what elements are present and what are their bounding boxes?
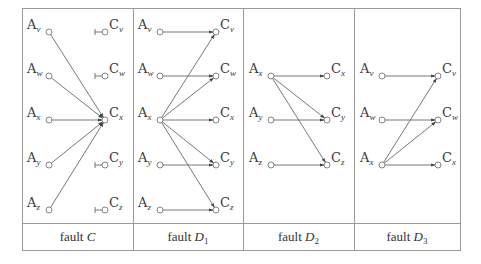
node-label-ax: Ax: [248, 61, 262, 78]
node-label-ay: Ay: [137, 150, 151, 167]
node-az: [157, 207, 163, 213]
node-label-ax: Ax: [137, 105, 151, 122]
node-label-ay: Ay: [26, 150, 40, 167]
edge-aw-cx: [51, 78, 102, 118]
node-label-cw: Cw: [220, 61, 236, 78]
node-cy: [324, 117, 330, 123]
node-label-cy: Cy: [220, 150, 234, 167]
node-cx: [435, 162, 441, 168]
node-label-ay: Ay: [248, 105, 262, 122]
fault-diagram: AvAwAxAyAzCvCwCxCyCzfault CAvAwAxAyAzCvC…: [0, 0, 481, 264]
node-label-aw: Aw: [26, 61, 42, 78]
node-label-az: Az: [26, 195, 40, 212]
node-cv: [213, 29, 219, 35]
node-av: [157, 29, 163, 35]
node-label-cv: Cv: [442, 61, 456, 78]
node-az: [268, 162, 274, 168]
panel-4: AvAwAxCvCwCxfault D3: [359, 61, 458, 246]
node-label-cx: Cx: [331, 61, 345, 78]
node-label-ax: Ax: [359, 150, 373, 167]
node-label-aw: Aw: [359, 105, 375, 122]
node-label-aw: Aw: [137, 61, 153, 78]
panel-3: AxAyAzCxCyCzfault D2: [248, 61, 345, 246]
node-cv: [102, 29, 108, 35]
edge-ax-cy: [162, 122, 213, 163]
node-label-cz: Cz: [109, 195, 123, 212]
node-aw: [379, 117, 385, 123]
edge-ax-cv: [384, 79, 437, 163]
node-label-az: Az: [248, 150, 262, 167]
node-cx: [102, 117, 108, 123]
node-ax: [379, 162, 385, 168]
node-cv: [435, 73, 441, 79]
node-cw: [102, 73, 108, 79]
node-ay: [157, 162, 163, 168]
edge-ax-cz: [273, 79, 326, 163]
node-av: [46, 29, 52, 35]
node-ax: [46, 117, 52, 123]
edge-ax-cw: [384, 122, 435, 163]
node-label-av: Av: [137, 17, 151, 34]
panel-1: AvAwAxAyAzCvCwCxCyCzfault C: [26, 17, 125, 244]
node-ax: [268, 73, 274, 79]
node-cw: [435, 117, 441, 123]
node-label-cz: Cz: [220, 195, 234, 212]
node-cx: [324, 73, 330, 79]
node-label-av: Av: [359, 61, 373, 78]
node-cw: [213, 73, 219, 79]
edge-ax-cy: [273, 78, 324, 118]
node-label-cx: Cx: [109, 105, 123, 122]
panel-caption: fault D2: [278, 229, 319, 246]
panel-caption: fault D1: [168, 229, 209, 246]
node-label-cx: Cx: [220, 105, 234, 122]
panel-caption: fault C: [60, 229, 96, 244]
node-cz: [324, 162, 330, 168]
node-aw: [46, 73, 52, 79]
node-cy: [213, 162, 219, 168]
node-cz: [213, 207, 219, 213]
panel-caption: fault D3: [387, 229, 428, 246]
panel-2: AvAwAxAyAzCvCwCxCyCzfault D1: [137, 17, 236, 246]
node-label-av: Av: [26, 17, 40, 34]
node-az: [46, 207, 52, 213]
node-label-az: Az: [137, 195, 151, 212]
node-label-cy: Cy: [109, 150, 123, 167]
node-cz: [102, 207, 108, 213]
node-label-ax: Ax: [26, 105, 40, 122]
node-ay: [46, 162, 52, 168]
node-cy: [102, 162, 108, 168]
node-av: [379, 73, 385, 79]
node-label-cx: Cx: [442, 150, 456, 167]
node-label-cv: Cv: [220, 17, 234, 34]
node-label-cy: Cy: [331, 105, 345, 122]
figure-frame: [23, 9, 461, 251]
node-label-cw: Cw: [109, 61, 125, 78]
edge-ax-cw: [162, 78, 213, 118]
node-cx: [213, 117, 219, 123]
node-label-cw: Cw: [442, 105, 458, 122]
edge-ay-cx: [51, 122, 102, 163]
node-ay: [268, 117, 274, 123]
node-ax: [157, 117, 163, 123]
node-aw: [157, 73, 163, 79]
node-label-cz: Cz: [331, 150, 345, 167]
node-label-cv: Cv: [109, 17, 123, 34]
